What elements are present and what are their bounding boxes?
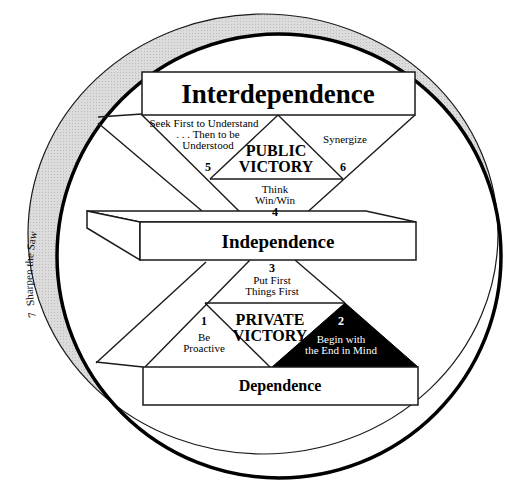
habit-6-number: 6: [340, 160, 346, 174]
private-victory-line2: VICTORY: [233, 327, 308, 344]
habit-6-line1: Synergize: [323, 133, 367, 145]
public-victory-line2: VICTORY: [239, 158, 314, 175]
habit-1-number: 1: [201, 314, 207, 328]
habit-5-number: 5: [205, 160, 211, 174]
dependence-label: Dependence: [239, 377, 322, 395]
habit-5-line3: Understood: [182, 139, 234, 151]
habit-1-line2: Proactive: [183, 342, 225, 354]
seven-habits-diagram: 7Sharpen the Saw: [0, 0, 527, 480]
independence-label: Independence: [222, 231, 335, 252]
habit-3-line2: Things First: [245, 285, 298, 297]
habit-2-number: 2: [338, 314, 344, 328]
interdependence-label: Interdependence: [181, 79, 374, 109]
habit-2-line2: the End in Mind: [305, 344, 377, 356]
private-victory-line1: PRIVATE: [236, 311, 305, 328]
habit-3-number: 3: [269, 261, 275, 275]
habit-4-number: 4: [272, 205, 278, 219]
public-victory-line1: PUBLIC: [246, 142, 306, 159]
